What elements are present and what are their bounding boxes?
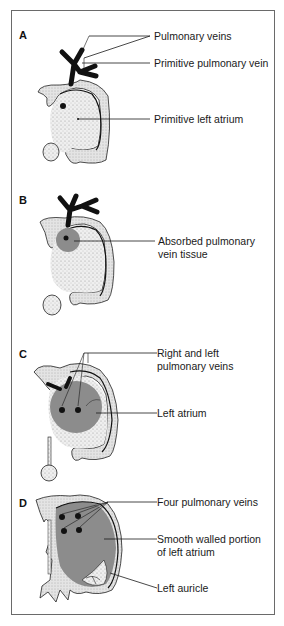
panel-letter-c: C (19, 348, 27, 360)
label-left-auricle: Left auricle (157, 582, 208, 595)
label-line-1: Absorbed pulmonary (158, 235, 255, 248)
panel-a-drawing (38, 36, 150, 163)
label-right-and-left-pulmonary-veins: Right and left pulmonary veins (157, 347, 233, 372)
panel-letter-b: B (19, 194, 27, 206)
panel-letter-d: D (19, 497, 27, 509)
label-line-1: Right and left (157, 347, 233, 360)
panel-c-drawing (34, 353, 157, 481)
panel-b-drawing (40, 196, 155, 315)
panel-d-drawing (36, 495, 157, 602)
label-primitive-pulmonary-vein: Primitive pulmonary vein (154, 57, 268, 70)
label-line-2: vein tissue (158, 248, 255, 261)
label-primitive-left-atrium: Primitive left atrium (154, 113, 243, 126)
label-pulmonary-veins: Pulmonary veins (154, 30, 232, 43)
label-smooth-walled-portion: Smooth walled portion of left atrium (157, 533, 261, 558)
label-line-2: of left atrium (157, 546, 261, 559)
label-left-atrium: Left atrium (157, 407, 207, 420)
panel-letter-a: A (19, 29, 27, 41)
label-line-1: Smooth walled portion (157, 533, 261, 546)
label-line-2: pulmonary veins (157, 360, 233, 373)
label-absorbed-pulmonary-vein-tissue: Absorbed pulmonary vein tissue (158, 235, 255, 260)
label-four-pulmonary-veins: Four pulmonary veins (157, 496, 258, 509)
